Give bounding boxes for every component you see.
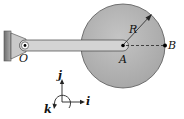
k-arrowhead <box>53 104 58 110</box>
label-o: O <box>19 53 28 64</box>
label-r: R <box>129 24 137 35</box>
label-i: i <box>86 96 90 107</box>
label-j: j <box>58 70 62 81</box>
wall-support <box>4 31 11 61</box>
arm-bar <box>20 40 129 51</box>
i-arrowhead <box>80 100 85 104</box>
label-b: B <box>168 40 176 51</box>
point-b <box>163 44 167 48</box>
label-a: A <box>119 54 127 65</box>
pin-o-dot <box>24 44 27 47</box>
label-k: k <box>44 104 52 115</box>
coordinate-axes <box>53 79 86 109</box>
